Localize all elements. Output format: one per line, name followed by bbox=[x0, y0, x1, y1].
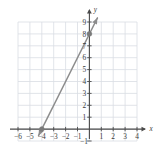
svg-text:9: 9 bbox=[82, 18, 86, 27]
svg-text:7: 7 bbox=[82, 42, 86, 51]
svg-text:5: 5 bbox=[82, 65, 86, 74]
svg-text:1: 1 bbox=[99, 132, 103, 141]
svg-text:−1: −1 bbox=[80, 137, 88, 146]
svg-text:−4: −4 bbox=[38, 132, 46, 141]
svg-text:2: 2 bbox=[111, 132, 115, 141]
svg-text:y: y bbox=[93, 6, 98, 14]
svg-text:1: 1 bbox=[82, 113, 86, 122]
svg-text:x: x bbox=[148, 125, 153, 133]
svg-text:8: 8 bbox=[82, 30, 86, 39]
svg-text:−2: −2 bbox=[62, 132, 70, 141]
graph-canvas: −6−5−4−3−2−11234−1123456789xy bbox=[0, 0, 156, 157]
svg-text:3: 3 bbox=[82, 89, 86, 98]
axis-tick-labels: −6−5−4−3−2−11234−1123456789xy bbox=[14, 6, 153, 147]
svg-text:6: 6 bbox=[82, 53, 86, 62]
svg-text:−5: −5 bbox=[26, 132, 34, 141]
grid-lines bbox=[18, 22, 137, 141]
svg-text:−6: −6 bbox=[14, 132, 22, 141]
coordinate-plane-graph: −6−5−4−3−2−11234−1123456789xy bbox=[0, 0, 156, 157]
svg-text:4: 4 bbox=[82, 77, 86, 86]
svg-text:3: 3 bbox=[123, 132, 127, 141]
svg-text:2: 2 bbox=[82, 101, 86, 110]
svg-text:4: 4 bbox=[135, 132, 139, 141]
axes bbox=[10, 9, 146, 139]
svg-text:−3: −3 bbox=[50, 132, 58, 141]
